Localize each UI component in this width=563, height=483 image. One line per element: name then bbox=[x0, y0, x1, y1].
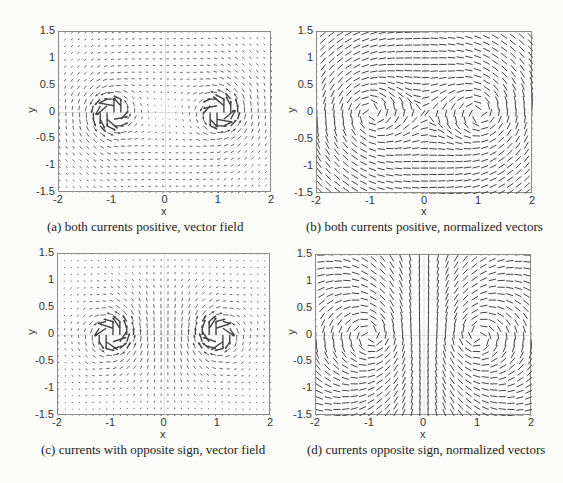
ytick-label: 0.5 bbox=[289, 79, 313, 90]
xtick-label: 2 bbox=[521, 417, 541, 428]
xtick-label: 0 bbox=[155, 194, 175, 205]
xtick-label: -1 bbox=[101, 194, 121, 205]
xlabel-c: x bbox=[160, 428, 166, 440]
ytick-label: 1 bbox=[30, 274, 54, 285]
ytick-label: 1 bbox=[289, 52, 313, 63]
caption-b: (b) both currents positive, normalized v… bbox=[306, 219, 543, 235]
ytick-label: 0 bbox=[30, 328, 54, 339]
xtick-label: 0 bbox=[414, 195, 434, 206]
plot-area-d bbox=[315, 254, 531, 415]
xtick-label: 1 bbox=[468, 195, 488, 206]
plot-area-a bbox=[58, 31, 271, 192]
quiver-d bbox=[316, 255, 532, 416]
xtick-label: 0 bbox=[154, 417, 174, 428]
ytick-label: 1 bbox=[288, 275, 312, 286]
xtick-label: -2 bbox=[48, 194, 68, 205]
xtick-label: 1 bbox=[467, 417, 487, 428]
caption-c: (c) currents with opposite sign, vector … bbox=[41, 442, 265, 458]
ytick-label: 0 bbox=[288, 329, 312, 340]
ytick-label: 0 bbox=[31, 106, 55, 117]
xtick-label: -2 bbox=[306, 195, 326, 206]
xtick-label: 2 bbox=[261, 194, 281, 205]
ytick-label: 1.5 bbox=[31, 25, 55, 36]
ytick-label: -0.5 bbox=[30, 355, 54, 366]
ytick-label: -1 bbox=[31, 159, 55, 170]
ytick-label: 0 bbox=[289, 106, 313, 117]
xtick-label: 0 bbox=[413, 417, 433, 428]
xtick-label: -1 bbox=[360, 195, 380, 206]
ytick-label: -0.5 bbox=[288, 355, 312, 366]
caption-d: (d) currents opposite sign, normalized v… bbox=[307, 442, 545, 458]
xlabel-a: x bbox=[161, 205, 167, 217]
ytick-label: 1.5 bbox=[288, 248, 312, 259]
xtick-label: 2 bbox=[260, 417, 280, 428]
caption-a: (a) both currents positive, vector field bbox=[47, 219, 243, 235]
ytick-label: 1.5 bbox=[289, 25, 313, 36]
ytick-label: -1 bbox=[288, 382, 312, 393]
ytick-label: 1 bbox=[31, 52, 55, 63]
xlabel-b: x bbox=[421, 205, 427, 217]
ytick-label: -0.5 bbox=[289, 133, 313, 144]
quiver-a bbox=[59, 32, 272, 193]
ytick-label: -1 bbox=[289, 160, 313, 171]
xtick-label: -2 bbox=[47, 417, 67, 428]
xtick-label: 2 bbox=[522, 195, 542, 206]
xtick-label: -2 bbox=[305, 417, 325, 428]
xlabel-d: x bbox=[420, 428, 426, 440]
ytick-label: 0.5 bbox=[288, 302, 312, 313]
plot-area-c bbox=[57, 253, 270, 415]
xtick-label: 1 bbox=[207, 417, 227, 428]
quiver-c bbox=[58, 254, 271, 416]
plot-area-b bbox=[316, 31, 532, 193]
ytick-label: 1.5 bbox=[30, 247, 54, 258]
xtick-label: 1 bbox=[208, 194, 228, 205]
ytick-label: 0.5 bbox=[31, 79, 55, 90]
xtick-label: -1 bbox=[100, 417, 120, 428]
ytick-label: -0.5 bbox=[31, 132, 55, 143]
xtick-label: -1 bbox=[359, 417, 379, 428]
ytick-label: 0.5 bbox=[30, 301, 54, 312]
quiver-b bbox=[317, 32, 533, 194]
ytick-label: -1 bbox=[30, 382, 54, 393]
